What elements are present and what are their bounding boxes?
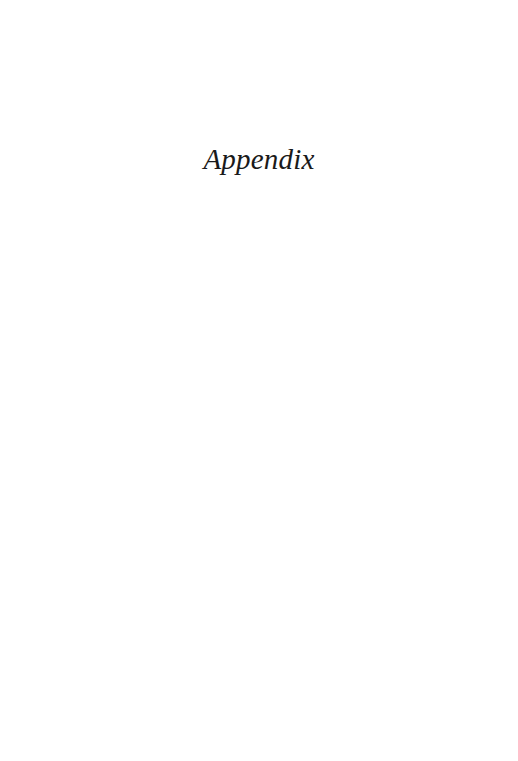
document-page: Appendix bbox=[0, 0, 518, 761]
page-title: Appendix bbox=[0, 141, 518, 177]
